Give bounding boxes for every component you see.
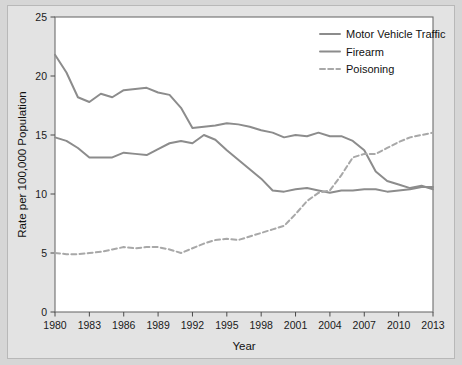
line-chart: 0510152025198019831986198919921995199820… <box>0 0 462 365</box>
x-axis-tick-label: 1992 <box>181 319 205 331</box>
x-axis-tick-label: 2001 <box>284 319 308 331</box>
y-axis-tick-label: 20 <box>35 70 47 82</box>
x-axis-tick-label: 2007 <box>353 319 377 331</box>
x-axis-tick-label: 1998 <box>250 319 274 331</box>
y-axis-tick-label: 5 <box>41 247 47 259</box>
y-axis-title: Rate per 100,000 Population <box>16 91 28 237</box>
y-axis: 0510152025 <box>35 11 55 318</box>
x-axis-tick-label: 2010 <box>387 319 411 331</box>
x-axis-tick-label: 1983 <box>78 319 102 331</box>
y-axis-tick-label: 15 <box>35 129 47 141</box>
x-axis: 1980198319861989199219951998200120042007… <box>43 312 445 331</box>
x-axis-tick-label: 2004 <box>318 319 342 331</box>
x-axis-tick-label: 1980 <box>43 319 67 331</box>
y-axis-tick-label: 0 <box>41 306 47 318</box>
y-axis-tick-label: 10 <box>35 188 47 200</box>
legend-label-1: Firearm <box>346 46 384 58</box>
legend-label-2: Poisoning <box>346 63 394 75</box>
x-axis-tick-label: 1995 <box>215 319 239 331</box>
y-axis-tick-label: 25 <box>35 11 47 23</box>
figure-container: 0510152025198019831986198919921995199820… <box>0 0 462 365</box>
x-axis-title: Year <box>232 340 255 352</box>
x-axis-tick-label: 1986 <box>112 319 136 331</box>
x-axis-tick-label: 1989 <box>146 319 170 331</box>
x-axis-tick-label: 2013 <box>421 319 445 331</box>
legend-label-0: Motor Vehicle Traffic <box>346 28 446 40</box>
